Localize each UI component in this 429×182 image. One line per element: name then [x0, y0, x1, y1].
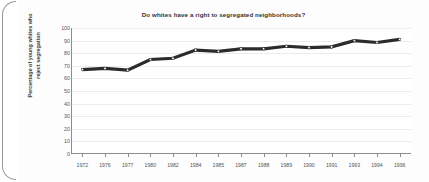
x-tick-mark	[286, 154, 287, 157]
x-tick-label: 1982	[161, 162, 185, 168]
x-tick-label: 1994	[365, 162, 389, 168]
x-tick-mark	[377, 154, 378, 157]
y-tick-label: 10	[48, 138, 70, 144]
x-tick-mark	[354, 154, 355, 157]
data-point-marker	[104, 67, 106, 69]
series-line	[82, 39, 399, 70]
x-tick-mark	[218, 154, 219, 157]
data-point-marker	[81, 68, 83, 70]
x-tick-mark	[264, 154, 265, 157]
y-axis-title-line1: Percentage of young whites who	[27, 14, 33, 98]
x-tick-label: 1972	[70, 162, 94, 168]
x-tick-mark	[332, 154, 333, 157]
data-point-marker	[399, 38, 401, 40]
y-tick-label: 80	[48, 50, 70, 56]
x-tick-label: 1988	[252, 162, 276, 168]
data-point-marker	[195, 49, 197, 51]
x-tick-mark	[400, 154, 401, 157]
y-tick-label: 50	[48, 88, 70, 94]
x-tick-label: 1985	[206, 162, 230, 168]
data-point-marker	[263, 48, 265, 50]
data-point-marker	[217, 50, 219, 52]
chart-card: Do whites have a right to segregated nei…	[18, 0, 429, 182]
x-tick-label: 1991	[320, 162, 344, 168]
x-tick-mark	[128, 154, 129, 157]
x-tick-label: 1996	[388, 162, 412, 168]
x-tick-mark	[173, 154, 174, 157]
x-tick-mark	[241, 154, 242, 157]
y-tick-label: 90	[48, 38, 70, 44]
x-tick-mark	[150, 154, 151, 157]
plot-area: 0102030405060708090100 19721976197719801…	[71, 28, 411, 154]
x-tick-label: 1987	[229, 162, 253, 168]
y-tick-label: 40	[48, 101, 70, 107]
y-tick-label: 30	[48, 113, 70, 119]
y-tick-label: 100	[48, 25, 70, 31]
data-point-marker	[172, 57, 174, 59]
data-point-marker	[353, 40, 355, 42]
data-point-marker	[308, 46, 310, 48]
y-tick-label: 20	[48, 126, 70, 132]
data-point-marker	[127, 69, 129, 71]
x-tick-label: 1977	[116, 162, 140, 168]
x-tick-label: 1989	[274, 162, 298, 168]
x-tick-label: 1976	[93, 162, 117, 168]
x-tick-label: 1980	[138, 162, 162, 168]
y-axis-title: Percentage of young whites who reject se…	[27, 0, 42, 116]
x-tick-label: 1990	[297, 162, 321, 168]
y-axis-title-line2: reject segregation	[34, 32, 40, 78]
x-tick-mark	[309, 154, 310, 157]
x-tick-mark	[196, 154, 197, 157]
line-series	[71, 28, 411, 154]
y-tick-label: 70	[48, 63, 70, 69]
data-point-marker	[149, 58, 151, 60]
chart-title: Do whites have a right to segregated nei…	[18, 11, 429, 18]
data-point-marker	[331, 46, 333, 48]
x-tick-mark	[82, 154, 83, 157]
x-tick-label: 1993	[342, 162, 366, 168]
x-tick-label: 1984	[184, 162, 208, 168]
data-point-marker	[376, 41, 378, 43]
data-point-marker	[240, 48, 242, 50]
card-left-border	[2, 1, 16, 180]
y-tick-label: 0	[48, 151, 70, 157]
x-tick-mark	[105, 154, 106, 157]
data-point-marker	[285, 45, 287, 47]
y-tick-label: 60	[48, 75, 70, 81]
